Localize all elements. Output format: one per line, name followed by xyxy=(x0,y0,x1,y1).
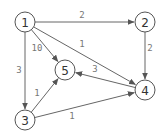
node-label: 2 xyxy=(141,16,149,30)
edge-4-to-5 xyxy=(76,73,136,88)
edge-3-to-4 xyxy=(35,93,135,118)
node-label: 1 xyxy=(21,16,29,30)
edge-weight-label: 2 xyxy=(79,10,84,20)
node-4: 4 xyxy=(135,80,155,100)
node-1: 1 xyxy=(15,12,35,32)
node-label: 5 xyxy=(61,64,69,78)
node-label: 3 xyxy=(21,114,29,128)
edge-weight-label: 3 xyxy=(92,64,97,74)
edge-labels-layer: 211032311 xyxy=(16,10,152,121)
node-3: 3 xyxy=(15,110,35,130)
edge-weight-label: 1 xyxy=(34,88,39,98)
edge-weight-label: 1 xyxy=(69,111,74,121)
edge-weight-label: 1 xyxy=(79,39,84,49)
edges-layer xyxy=(25,22,145,118)
edge-weight-label: 2 xyxy=(147,43,152,53)
edge-weight-label: 10 xyxy=(32,43,43,53)
nodes-layer: 12345 xyxy=(15,12,155,130)
node-5: 5 xyxy=(55,60,75,80)
edge-1-to-4 xyxy=(34,27,136,85)
node-label: 4 xyxy=(141,84,149,98)
edge-weight-label: 3 xyxy=(16,65,21,75)
graph-diagram: 211032311 12345 xyxy=(0,0,165,138)
node-2: 2 xyxy=(135,12,155,32)
